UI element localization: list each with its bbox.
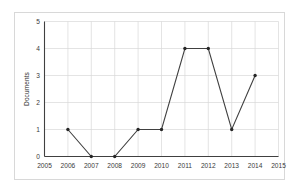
x-tick-label: 2013 <box>224 162 239 169</box>
data-point-marker <box>113 155 116 158</box>
x-tick-label: 2015 <box>271 162 286 169</box>
y-tick-label: 4 <box>36 45 40 52</box>
data-point-marker <box>230 128 233 131</box>
x-axis-tick-labels: 2005200620072008200920102011201220132014… <box>37 162 286 169</box>
chart-figure: 012345 200520062007200820092010201120122… <box>0 0 300 191</box>
x-tick-label: 2008 <box>107 162 122 169</box>
data-point-marker <box>207 47 210 50</box>
data-point-marker <box>136 128 139 131</box>
data-point-marker <box>253 74 256 77</box>
data-point-marker <box>183 47 186 50</box>
y-axis-title-text: Documents <box>23 71 30 105</box>
y-axis-title: Documents <box>23 71 30 105</box>
data-point-marker <box>160 128 163 131</box>
x-tick-label: 2010 <box>154 162 169 169</box>
y-tick-label: 1 <box>36 126 40 133</box>
data-point-marker <box>90 155 93 158</box>
line-chart-plot: 012345 200520062007200820092010201120122… <box>0 0 300 191</box>
y-tick-label: 2 <box>36 99 40 106</box>
x-tick-label: 2005 <box>37 162 52 169</box>
x-tick-label: 2014 <box>248 162 263 169</box>
x-tick-label: 2007 <box>84 162 99 169</box>
data-point-marker <box>66 128 69 131</box>
x-tick-label: 2011 <box>178 162 193 169</box>
y-tick-label: 5 <box>36 18 40 25</box>
gridlines <box>45 22 279 157</box>
x-tick-label: 2006 <box>61 162 76 169</box>
x-tick-label: 2009 <box>131 162 146 169</box>
x-tick-label: 2012 <box>201 162 216 169</box>
y-tick-label: 0 <box>36 153 40 160</box>
y-axis-tick-labels: 012345 <box>36 18 40 160</box>
y-tick-label: 3 <box>36 72 40 79</box>
